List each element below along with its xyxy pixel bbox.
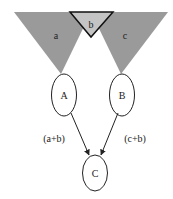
edge-A-C-label: (a+b): [43, 133, 65, 145]
node-A-label: A: [60, 90, 68, 101]
node-B-label: B: [119, 90, 126, 101]
edge-A-C: [71, 113, 89, 155]
edge-B-C: [101, 113, 118, 155]
triangle-a-label: a: [54, 30, 59, 41]
edge-B-C-label: (c+b): [124, 133, 146, 145]
diagram-canvas: a b c A B C (a+b) (c+b): [0, 0, 173, 199]
triangle-b-label: b: [89, 19, 94, 30]
node-C-label: C: [92, 168, 99, 179]
triangle-c-label: c: [123, 30, 128, 41]
